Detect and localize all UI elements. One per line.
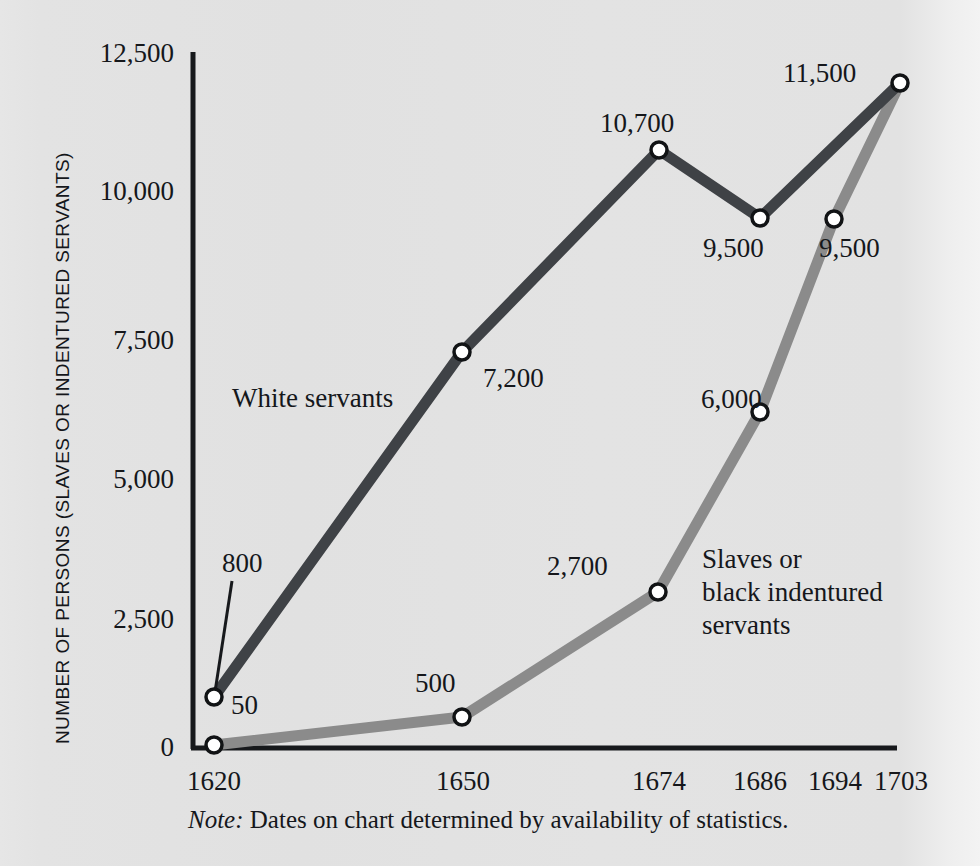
data-label-10700: 10,700 (600, 108, 674, 139)
data-label-6000: 6,000 (701, 384, 762, 415)
y-tick-7500: 7,500 (48, 325, 174, 356)
chart-figure: NUMBER OF PERSONS (SLAVES OR INDENTURED … (0, 0, 980, 866)
data-label-500: 500 (415, 668, 456, 699)
chart-note-prefix: Note: (188, 806, 244, 833)
series-label-slaves: Slaves or black indentured servants (702, 543, 883, 642)
chart-note-body: Dates on chart determined by availabilit… (244, 806, 789, 833)
x-tick-1674: 1674 (605, 766, 713, 797)
y-tick-12500: 12,500 (48, 38, 174, 69)
x-tick-1650: 1650 (409, 766, 517, 797)
y-tick-0: 0 (48, 732, 174, 763)
series-label-slaves-line3: servants (702, 609, 883, 642)
series-label-white-servants: White servants (232, 382, 393, 415)
chart-note: Note: Dates on chart determined by avail… (188, 806, 789, 834)
y-tick-2500: 2,500 (48, 604, 174, 635)
data-label-11500: 11,500 (783, 58, 856, 89)
data-label-9500-black: 9,500 (819, 233, 880, 264)
y-axis-title: NUMBER OF PERSONS (SLAVES OR INDENTURED … (52, 152, 74, 744)
data-label-50: 50 (231, 690, 258, 721)
data-label-2700: 2,700 (547, 551, 608, 582)
data-label-800: 800 (222, 548, 263, 579)
series-label-slaves-line2: black indentured (702, 576, 883, 609)
data-label-7200: 7,200 (483, 363, 544, 394)
series-label-slaves-line1: Slaves or (702, 543, 883, 576)
x-tick-1703: 1703 (847, 766, 955, 797)
data-label-9500-white: 9,500 (703, 233, 764, 264)
y-tick-10000: 10,000 (48, 176, 174, 207)
y-tick-5000: 5,000 (48, 464, 174, 495)
x-tick-1620: 1620 (160, 766, 268, 797)
